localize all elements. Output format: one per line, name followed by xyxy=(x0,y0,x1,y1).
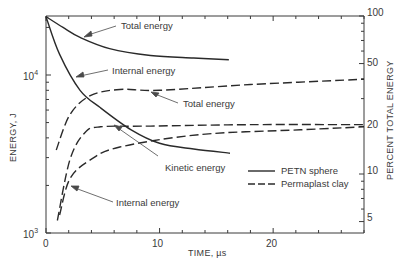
annotation-clay-internal-energy: Internal energy xyxy=(116,197,180,208)
energy-chart: 0 10 20 104 103 100 50 20 10 5 TIME, µs … xyxy=(0,0,403,262)
x-tick-0: 0 xyxy=(43,238,49,249)
series-line-2 xyxy=(56,79,364,150)
y-right-tick-20: 20 xyxy=(367,119,379,130)
y-axis-title: ENERGY, J xyxy=(8,113,18,162)
y-right-axis-ticks xyxy=(359,16,364,222)
y-right-tick-10: 10 xyxy=(367,165,379,176)
y-axis-ticks xyxy=(46,27,51,233)
annotation-clay-kinetic-energy: Kinetic energy xyxy=(165,162,225,173)
y-right-axis-title: PERCENT TOTAL ENERGY xyxy=(385,60,395,180)
x-tick-20: 20 xyxy=(266,238,278,249)
x-axis-title: TIME, µs xyxy=(188,248,227,258)
annotation-petn-total-energy: Total energy xyxy=(121,20,173,31)
legend-label-petn: PETN sphere xyxy=(281,165,338,176)
series-line-1 xyxy=(46,17,230,154)
x-tick-10: 10 xyxy=(152,238,164,249)
y-tick-10e3: 103 xyxy=(23,227,38,240)
legend: PETN sphere Permaplast clay xyxy=(248,165,349,189)
annotation-clay-total-energy: Total energy xyxy=(183,98,235,109)
y-tick-10e4: 104 xyxy=(23,69,38,82)
y-right-tick-50: 50 xyxy=(367,57,379,68)
y-right-tick-5: 5 xyxy=(367,212,373,223)
data-series xyxy=(46,17,364,221)
y-right-tick-100: 100 xyxy=(367,7,384,18)
annotation-petn-internal-energy: Internal energy xyxy=(112,65,176,76)
legend-label-permaplast: Permaplast clay xyxy=(281,178,349,189)
